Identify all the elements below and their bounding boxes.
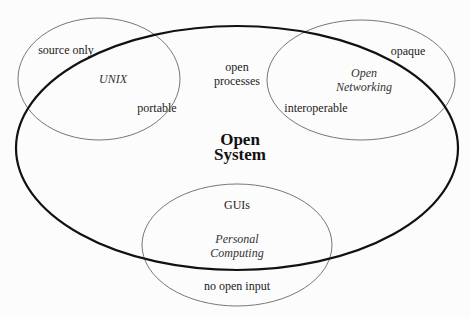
open-system-diagram: source only UNIX portable open processes… — [0, 0, 471, 319]
personal-computing-line2: Computing — [210, 246, 263, 260]
no-open-input-label: no open input — [204, 279, 270, 293]
open-label: open — [225, 60, 248, 74]
processes-label: processes — [214, 74, 260, 88]
open-networking-line2: Networking — [336, 80, 392, 94]
interoperable-label: interoperable — [284, 101, 347, 115]
source-only-label: source only — [38, 43, 94, 57]
guis-label: GUIs — [224, 198, 250, 212]
open-system-title-line2: System — [214, 146, 266, 163]
portable-label: portable — [137, 101, 176, 115]
open-networking-line1: Open — [351, 66, 377, 80]
personal-computing-line1: Personal — [215, 232, 258, 246]
unix-label: UNIX — [99, 72, 127, 86]
opaque-label: opaque — [391, 44, 426, 58]
